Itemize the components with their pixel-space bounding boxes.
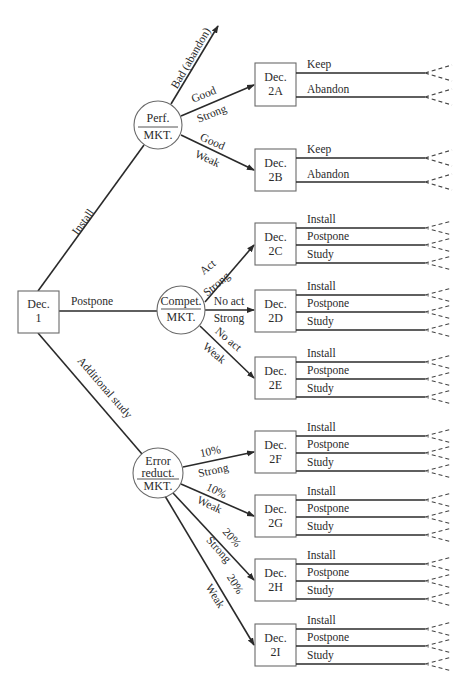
- decision-node-2g[interactable]: Dec.2GInstallPostponeStudy: [255, 485, 452, 542]
- d2g-option-study: Study: [307, 520, 334, 533]
- d2d-option-study: Study: [307, 315, 334, 328]
- compet-2e-bottom-label: Weak: [201, 340, 229, 366]
- d2i-continuation-icon: [425, 622, 452, 671]
- perf-label-top: Perf.: [147, 111, 170, 125]
- perf-2a-bottom-label: Strong: [195, 102, 229, 126]
- decision-node-dec1[interactable]: Dec. 1: [18, 291, 59, 333]
- d2c-line1: Dec.: [264, 230, 286, 244]
- d2e-option-postpone: Postpone: [307, 364, 349, 377]
- perf-2b-bottom-label: Weak: [193, 148, 222, 170]
- d2d-option-postpone: Postpone: [307, 297, 349, 310]
- error-2f-top-label: 10%: [199, 443, 223, 459]
- d2b-continuation-icon: [425, 150, 452, 190]
- branch-postpone-label: Postpone: [71, 295, 113, 308]
- d2i-line1: Dec.: [264, 631, 286, 645]
- d2h-line2: 2H: [268, 580, 283, 594]
- d2c-continuation-icon: [425, 221, 452, 270]
- decision-node-2f[interactable]: Dec.2FInstallPostponeStudy: [255, 421, 452, 478]
- d2b-option-abandon: Abandon: [307, 168, 349, 180]
- compet-2d-bottom-label: Strong: [214, 312, 245, 325]
- decision-tree-diagram: Install Postpone Additional study Dec. 1…: [0, 0, 469, 682]
- error-to-2i-arrow: [165, 496, 254, 645]
- d2e-option-study: Study: [307, 382, 334, 395]
- compet-label-top: Compet.: [161, 294, 202, 308]
- d2g-option-install: Install: [307, 485, 336, 497]
- d2b-option-keep: Keep: [307, 143, 332, 156]
- d2a-option-keep: Keep: [307, 58, 332, 71]
- decision-node-2c[interactable]: Dec.2CInstallPostponeStudy: [255, 213, 452, 270]
- d2e-option-install: Install: [307, 347, 336, 359]
- chance-node-perf[interactable]: Bad (abandon) Good Strong Good Weak Perf…: [134, 25, 254, 170]
- branch-install-label: Install: [69, 206, 96, 236]
- branch-study-line: [38, 333, 142, 454]
- chance-node-error[interactable]: 10% Strong 10% Weak 20% Strong 20% Weak …: [133, 443, 254, 645]
- d2e-line1: Dec.: [264, 364, 286, 378]
- d2c-option-study: Study: [307, 248, 334, 261]
- d2f-option-install: Install: [307, 421, 336, 433]
- decision-node-2b[interactable]: Dec. 2B Keep Abandon: [255, 143, 452, 191]
- compet-label-bottom: MKT.: [167, 310, 196, 324]
- decision-node-2a[interactable]: Dec. 2A Keep Abandon: [255, 58, 452, 106]
- d2c-option-install: Install: [307, 213, 336, 225]
- d2b-line2: 2B: [268, 170, 282, 184]
- d2d-line1: Dec.: [264, 297, 286, 311]
- d2g-line1: Dec.: [264, 502, 286, 516]
- d2h-option-install: Install: [307, 549, 336, 561]
- d2c-option-postpone: Postpone: [307, 230, 349, 243]
- d2d-line2: 2D: [268, 311, 283, 325]
- decision-node-2i[interactable]: Dec.2IInstallPostponeStudy: [255, 614, 452, 671]
- d2h-option-postpone: Postpone: [307, 566, 349, 579]
- error-label-line2: reduct.: [142, 466, 175, 480]
- chance-node-compet[interactable]: Act Strong No act Strong No act Weak Com…: [157, 245, 254, 378]
- error-2i-top-label: 20%: [225, 572, 247, 597]
- d2a-option-abandon: Abandon: [307, 83, 349, 95]
- d2d-continuation-icon: [425, 288, 452, 337]
- d2h-continuation-icon: [425, 557, 452, 606]
- d2h-option-study: Study: [307, 584, 334, 597]
- d2i-option-postpone: Postpone: [307, 631, 349, 644]
- three-option-decision-nodes: Dec.2CInstallPostponeStudyDec.2DInstallP…: [255, 213, 452, 671]
- compet-2c-top-label: Act: [197, 256, 218, 276]
- d2i-option-install: Install: [307, 614, 336, 626]
- d2d-option-install: Install: [307, 280, 336, 292]
- dec1-label-line2: 1: [36, 311, 42, 325]
- compet-2d-top-label: No act: [214, 295, 245, 307]
- decision-node-2e[interactable]: Dec.2EInstallPostponeStudy: [255, 347, 452, 404]
- error-2f-bottom-label: Strong: [197, 461, 230, 480]
- d2g-line2: 2G: [268, 516, 283, 530]
- d2c-line2: 2C: [268, 244, 282, 258]
- d2a-line2: 2A: [268, 84, 283, 98]
- error-label-bottom: MKT.: [144, 479, 173, 493]
- decision-node-2h[interactable]: Dec.2HInstallPostponeStudy: [255, 549, 452, 606]
- d2f-option-postpone: Postpone: [307, 438, 349, 451]
- dec1-label-line1: Dec.: [27, 297, 49, 311]
- perf-label-bottom: MKT.: [144, 128, 173, 142]
- d2e-line2: 2E: [269, 378, 282, 392]
- d2f-continuation-icon: [425, 429, 452, 478]
- d2i-line2: 2I: [271, 645, 281, 659]
- bad-abandon-label: Bad (abandon): [168, 25, 213, 91]
- d2b-line1: Dec.: [264, 156, 286, 170]
- d2g-option-postpone: Postpone: [307, 502, 349, 515]
- decision-node-2d[interactable]: Dec.2DInstallPostponeStudy: [255, 280, 452, 337]
- d2f-option-study: Study: [307, 456, 334, 469]
- d2g-continuation-icon: [425, 493, 452, 542]
- d2i-option-study: Study: [307, 649, 334, 662]
- d2e-continuation-icon: [425, 355, 452, 404]
- d2f-line1: Dec.: [264, 438, 286, 452]
- d2h-line1: Dec.: [264, 566, 286, 580]
- d2a-line1: Dec.: [264, 70, 286, 84]
- d2a-continuation-icon: [425, 65, 452, 105]
- d2f-line2: 2F: [269, 452, 282, 466]
